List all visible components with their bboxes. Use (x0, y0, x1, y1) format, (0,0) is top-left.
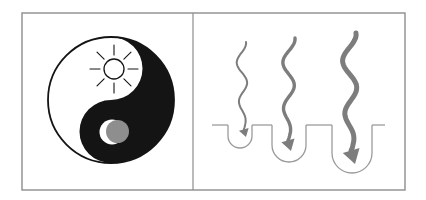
arrow-shaft (283, 38, 295, 140)
arrow-shaft (237, 42, 247, 129)
yin-yang-panel (48, 37, 174, 163)
sun-disc (104, 59, 124, 79)
descending-arrow (237, 42, 249, 137)
figure-canvas (0, 0, 426, 200)
wells-panel (212, 33, 385, 173)
descending-arrow (343, 33, 360, 164)
sun-icon (90, 45, 138, 93)
descending-arrow (281, 38, 295, 151)
arrow-shaft (343, 33, 357, 151)
figure (0, 0, 426, 200)
moon-disc (106, 120, 129, 143)
